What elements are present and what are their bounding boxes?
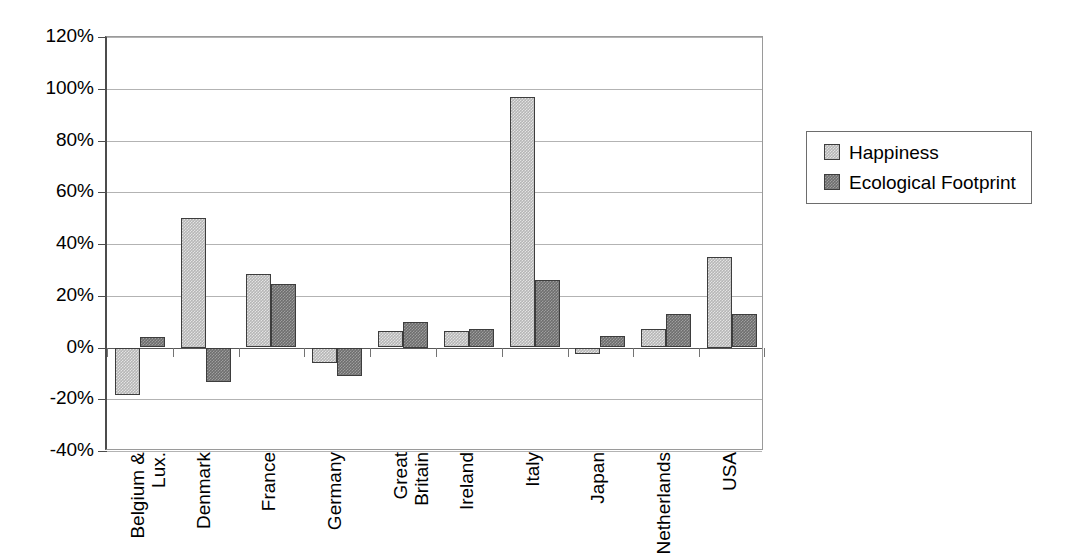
x-axis-label: Ireland — [434, 452, 500, 542]
x-tick-mark — [436, 348, 437, 357]
y-tick-mark — [98, 244, 107, 245]
legend-label-ecological-footprint: Ecological Footprint — [849, 173, 1016, 192]
y-tick-label: 20% — [22, 285, 94, 304]
bar-happiness — [181, 218, 206, 347]
bar-ecological-footprint — [732, 314, 757, 348]
y-tick-label: 120% — [22, 26, 94, 45]
x-axis-label: Belgium &Lux. — [105, 452, 171, 542]
bar-group — [107, 37, 173, 449]
x-tick-mark — [502, 348, 503, 357]
bar-happiness — [575, 348, 600, 354]
x-axis-label-line: Japan — [587, 452, 608, 504]
bar-ecological-footprint — [403, 322, 428, 348]
y-axis: 120%100%80%60%40%20%0%-20%-40% — [22, 0, 94, 542]
x-axis-label-line: France — [258, 452, 279, 511]
x-tick-mark — [764, 348, 765, 357]
bar-group — [304, 37, 370, 449]
y-tick-mark — [98, 192, 107, 193]
bar-ecological-footprint — [140, 337, 165, 347]
x-axis-label: France — [237, 452, 303, 542]
x-axis-label-line: Germany — [324, 452, 345, 530]
x-axis-label-line: Ireland — [456, 452, 477, 510]
bar-happiness — [378, 331, 403, 348]
bar-ecological-footprint — [271, 284, 296, 347]
bar-happiness — [510, 97, 535, 348]
bar-group — [239, 37, 305, 449]
y-tick-label: 80% — [22, 130, 94, 149]
bar-group — [568, 37, 634, 449]
legend-label-happiness: Happiness — [849, 143, 939, 162]
x-axis-label-line: Britain — [411, 452, 432, 506]
x-axis-label: Italy — [500, 452, 566, 542]
bar-ecological-footprint — [337, 348, 362, 376]
y-tick-label: -20% — [22, 388, 94, 407]
x-axis-label-line: Netherlands — [653, 452, 674, 554]
y-tick-mark — [98, 37, 107, 38]
bar-group — [436, 37, 502, 449]
bar-happiness — [312, 348, 337, 364]
x-axis-label-line: USA — [719, 452, 740, 491]
x-axis-label-line: Belgium & — [127, 452, 148, 539]
x-axis-label: Denmark — [171, 452, 237, 542]
plot-area — [105, 36, 763, 450]
bar-ecological-footprint — [666, 314, 691, 348]
bar-ecological-footprint — [469, 329, 494, 347]
legend-item-ecological-footprint: Ecological Footprint — [824, 170, 1016, 194]
legend-swatch-ecological-footprint — [824, 174, 840, 190]
x-tick-mark — [304, 348, 305, 357]
bar-group — [370, 37, 436, 449]
bar-group — [173, 37, 239, 449]
bar-group — [633, 37, 699, 449]
x-axis-label-line: Denmark — [193, 452, 214, 529]
bar-ecological-footprint — [206, 348, 231, 383]
y-tick-label: 100% — [22, 78, 94, 97]
y-tick-mark — [98, 89, 107, 90]
y-tick-mark — [98, 348, 107, 349]
bar-happiness — [246, 274, 271, 348]
y-tick-mark — [98, 296, 107, 297]
x-axis-label-line: Italy — [522, 452, 543, 487]
x-tick-mark — [568, 348, 569, 357]
y-tick-mark — [98, 141, 107, 142]
bar-happiness — [707, 257, 732, 348]
legend-item-happiness: Happiness — [824, 140, 939, 164]
x-tick-mark — [239, 348, 240, 357]
y-tick-label: 40% — [22, 233, 94, 252]
bar-group — [699, 37, 765, 449]
x-tick-mark — [107, 348, 108, 357]
bar-happiness — [115, 348, 140, 396]
y-tick-mark — [98, 399, 107, 400]
x-axis-label: Netherlands — [631, 452, 697, 542]
bar-group — [502, 37, 568, 449]
bar-happiness — [444, 331, 469, 348]
x-tick-mark — [370, 348, 371, 357]
x-axis-label: USA — [697, 452, 763, 542]
y-tick-label: 60% — [22, 181, 94, 200]
y-tick-label: -40% — [22, 440, 94, 459]
x-axis-label-line: Lux. — [148, 452, 169, 488]
legend-swatch-happiness — [824, 144, 840, 160]
bar-happiness — [641, 329, 666, 347]
chart-legend: Happiness Ecological Footprint — [806, 131, 1032, 204]
x-tick-mark — [173, 348, 174, 357]
bar-ecological-footprint — [600, 336, 625, 348]
bar-ecological-footprint — [535, 280, 560, 347]
x-axis-label: Japan — [566, 452, 632, 542]
x-axis-label-line: Great — [390, 452, 411, 500]
y-tick-label: 0% — [22, 337, 94, 356]
x-axis: Belgium &Lux.DenmarkFranceGermanyGreatBr… — [105, 452, 763, 542]
x-axis-label: GreatBritain — [368, 452, 434, 542]
x-tick-mark — [699, 348, 700, 357]
x-tick-mark — [633, 348, 634, 357]
x-axis-label: Germany — [302, 452, 368, 542]
